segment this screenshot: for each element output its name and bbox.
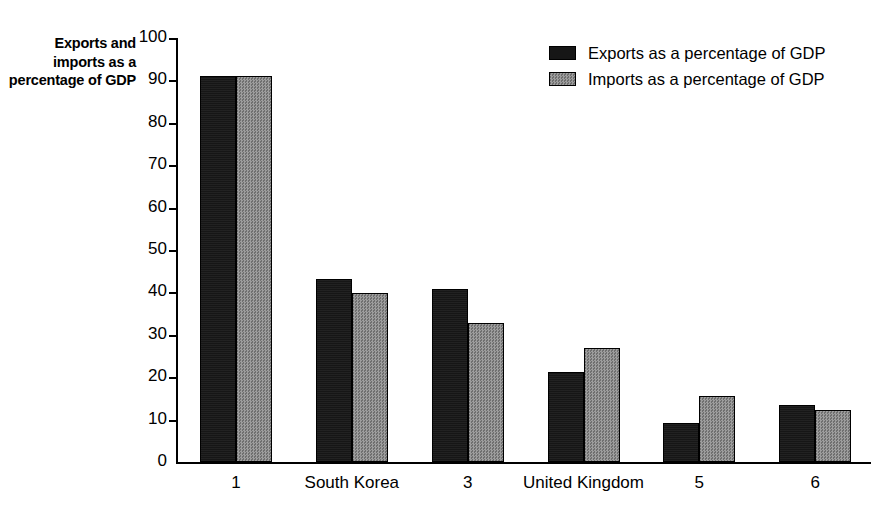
- y-tick-mark: [169, 377, 176, 379]
- y-tick-mark: [169, 208, 176, 210]
- x-axis-line: [176, 462, 871, 464]
- legend-label: Exports as a percentage of GDP: [588, 43, 826, 63]
- y-tick-mark: [169, 165, 176, 167]
- y-tick-label: 70: [148, 154, 167, 174]
- bar-exports: [316, 279, 352, 462]
- y-tick-mark: [169, 292, 176, 294]
- bar-group: [779, 38, 851, 462]
- bar-exports: [548, 372, 584, 462]
- chart-plot-area: 0102030405060708090100 1South Korea3Unit…: [176, 38, 871, 462]
- bar-exports: [779, 405, 815, 462]
- y-tick-label: 60: [148, 197, 167, 217]
- y-tick-label: 50: [148, 239, 167, 259]
- y-tick-label: 90: [148, 69, 167, 89]
- bar-group: [200, 38, 272, 462]
- y-tick-label: 80: [148, 112, 167, 132]
- bar-group: [548, 38, 620, 462]
- bar-imports: [352, 293, 388, 462]
- bar-group: [432, 38, 504, 462]
- legend-swatch-exports-icon: [549, 46, 576, 60]
- y-axis-line: [176, 38, 178, 462]
- chart-legend: Exports as a percentage of GDPImports as…: [549, 40, 879, 92]
- bar-group: [316, 38, 388, 462]
- y-tick-label: 20: [148, 366, 167, 386]
- x-category-label: 6: [740, 472, 882, 493]
- y-tick-label: 100: [139, 27, 167, 47]
- bar-imports: [699, 396, 735, 462]
- bar-exports: [663, 423, 699, 462]
- legend-swatch-imports-icon: [549, 72, 576, 86]
- legend-item[interactable]: Imports as a percentage of GDP: [549, 66, 879, 92]
- bar-group: [663, 38, 735, 462]
- y-tick-mark: [169, 123, 176, 125]
- y-tick-label: 0: [158, 451, 167, 471]
- y-tick-label: 40: [148, 281, 167, 301]
- legend-item[interactable]: Exports as a percentage of GDP: [549, 40, 879, 66]
- y-tick-mark: [169, 38, 176, 40]
- legend-label: Imports as a percentage of GDP: [588, 69, 825, 89]
- y-tick-mark: [169, 250, 176, 252]
- bar-imports: [815, 410, 851, 462]
- y-tick-mark: [169, 335, 176, 337]
- bar-imports: [584, 348, 620, 462]
- bar-exports: [432, 289, 468, 462]
- bar-imports: [236, 76, 272, 462]
- y-tick-mark: [169, 420, 176, 422]
- y-tick-mark: [169, 80, 176, 82]
- bar-exports: [200, 76, 236, 462]
- y-tick-label: 30: [148, 324, 167, 344]
- y-tick-label: 10: [148, 409, 167, 429]
- y-axis-title: Exports and imports as a percentage of G…: [8, 34, 136, 90]
- bar-imports: [468, 323, 504, 462]
